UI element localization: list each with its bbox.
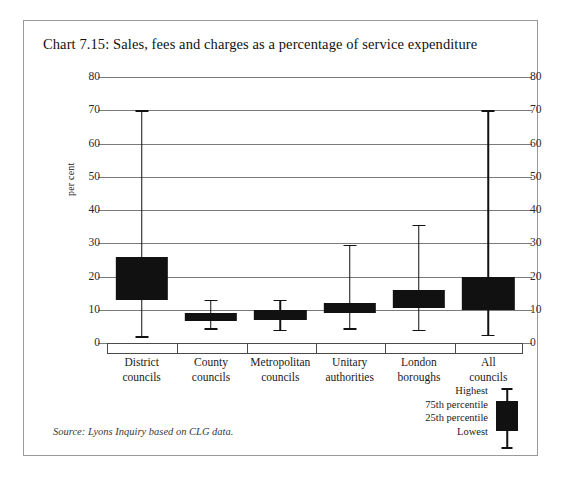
y-tick-label-left-60: 60 (89, 138, 101, 150)
legend-cap-highest (502, 388, 513, 390)
interquartile-box (115, 257, 167, 300)
boxplot-london-boroughs (384, 77, 453, 343)
whisker-cap-lowest (135, 336, 148, 338)
y-tick-label-left-70: 70 (89, 104, 101, 116)
y-tick-label-right-40: 40 (530, 204, 542, 216)
y-tick-label-right-60: 60 (530, 138, 542, 150)
interquartile-box (393, 290, 445, 308)
y-tick-label-left-0: 0 (94, 337, 100, 349)
y-tick-label-right-50: 50 (530, 171, 542, 183)
boxplot-district-councils (107, 77, 176, 343)
interquartile-box (462, 277, 514, 310)
y-tick-label-left-50: 50 (89, 171, 101, 183)
legend-labels: Highest 75th percentile 25th percentile … (425, 384, 488, 438)
plot-area: 0010102020303040405050606070708080 (107, 77, 523, 343)
interquartile-box (323, 303, 375, 313)
y-tick-label-right-80: 80 (530, 71, 542, 83)
whisker-cap-highest (482, 110, 495, 112)
whisker-cap-highest (343, 245, 356, 247)
boxplot-unitary-authorities (315, 77, 384, 343)
y-tick-label-right-70: 70 (530, 104, 542, 116)
legend-label-lowest: Lowest (425, 425, 488, 439)
x-axis-divider-3 (316, 343, 317, 354)
x-axis-label-metropolitan-councils: Metropolitancouncils (246, 355, 315, 384)
x-axis-label-london-boroughs: Londonboroughs (384, 355, 453, 384)
y-tick-label-right-30: 30 (530, 237, 542, 249)
whisker-line (349, 245, 351, 328)
y-tick-label-right-20: 20 (530, 271, 542, 283)
y-tick-label-left-20: 20 (89, 271, 101, 283)
x-axis-frame (107, 343, 523, 354)
x-axis-divider-2 (247, 343, 248, 354)
source-note: Source: Lyons Inquiry based on CLG data. (53, 426, 233, 437)
whisker-cap-lowest (412, 330, 425, 332)
legend-interquartile-box (496, 401, 518, 431)
chart-title: Chart 7.15: Sales, fees and charges as a… (43, 36, 477, 53)
legend-label-p75: 75th percentile (425, 398, 488, 412)
x-axis-label-all-councils: Allcouncils (454, 355, 523, 384)
whisker-cap-highest (204, 300, 217, 302)
whisker-cap-highest (135, 110, 148, 112)
legend-label-p25: 25th percentile (425, 411, 488, 425)
legend-label-highest: Highest (425, 384, 488, 398)
boxplot-county-councils (176, 77, 245, 343)
boxplot-metropolitan-councils (246, 77, 315, 343)
whisker-cap-highest (412, 225, 425, 227)
whisker-cap-lowest (343, 328, 356, 330)
chart-figure-frame: Chart 7.15: Sales, fees and charges as a… (23, 20, 538, 456)
x-axis-label-district-councils: Districtcouncils (107, 355, 176, 384)
x-axis-label-unitary-authorities: Unitaryauthorities (315, 355, 384, 384)
whisker-cap-highest (274, 300, 287, 302)
y-axis-title: per cent (65, 162, 76, 196)
whisker-line (141, 110, 143, 336)
legend-cap-lowest (502, 447, 513, 449)
y-tick-label-left-10: 10 (89, 304, 101, 316)
y-tick-label-left-40: 40 (89, 204, 101, 216)
y-tick-label-left-80: 80 (89, 71, 101, 83)
chart-legend: Highest 75th percentile 25th percentile … (402, 384, 522, 456)
x-axis-divider-5 (455, 343, 456, 354)
interquartile-box (254, 310, 306, 320)
whisker-cap-lowest (482, 335, 495, 337)
boxplot-all-councils (454, 77, 523, 343)
whisker-cap-lowest (274, 330, 287, 332)
x-axis-divider-1 (177, 343, 178, 354)
whisker-line (418, 225, 420, 330)
y-tick-label-right-10: 10 (530, 304, 542, 316)
whisker-cap-lowest (204, 328, 217, 330)
x-axis-label-county-councils: Countycouncils (176, 355, 245, 384)
y-tick-label-left-30: 30 (89, 237, 101, 249)
legend-boxplot-glyph (492, 386, 522, 452)
x-axis-divider-4 (385, 343, 386, 354)
y-tick-label-right-0: 0 (530, 337, 536, 349)
interquartile-box (185, 313, 237, 321)
